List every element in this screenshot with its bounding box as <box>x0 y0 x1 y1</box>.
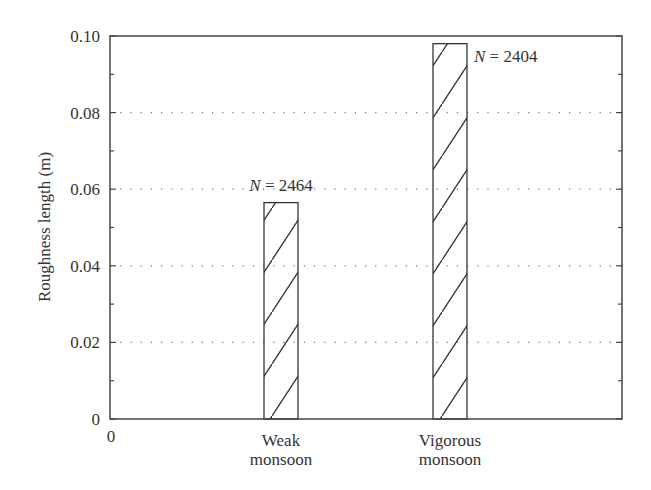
bar-chart: Roughness length (m) 0 N = 2464Weakmonso… <box>0 0 651 490</box>
y-tick-label: 0 <box>92 410 101 429</box>
gridlines <box>110 113 622 343</box>
bars <box>264 44 467 419</box>
bar <box>264 203 298 419</box>
x-tick-label-line: monsoon <box>250 450 313 469</box>
y-tick-label: 0.08 <box>70 104 100 123</box>
x-tick-label-line: Weak <box>262 431 301 450</box>
y-tick-label: 0.02 <box>70 333 100 352</box>
x-tick-label: Vigorousmonsoon <box>419 431 482 469</box>
x-tick-label-line: monsoon <box>419 450 482 469</box>
x-tick-label: Weakmonsoon <box>250 431 313 469</box>
bar-annotation: N = 2404 <box>473 47 538 66</box>
annotation-value: = 2464 <box>261 176 314 195</box>
bar <box>433 44 467 419</box>
plot-frame <box>110 36 622 419</box>
y-tick-label: 0.06 <box>70 180 100 199</box>
bar-annotation: N = 2464 <box>248 176 313 195</box>
y-tick-label: 0.10 <box>70 27 100 46</box>
x-origin-label: 0 <box>107 427 116 446</box>
y-tick-label: 0.04 <box>70 257 100 276</box>
x-tick-label-line: Vigorous <box>419 431 481 450</box>
axes <box>110 36 622 419</box>
annotation-value: = 2404 <box>485 47 538 66</box>
y-axis-title: Roughness length (m) <box>35 152 54 302</box>
